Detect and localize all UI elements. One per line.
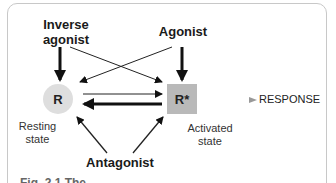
activated-line1: Activated bbox=[180, 122, 240, 135]
resting-state-node: R bbox=[43, 84, 73, 114]
response-label: RESPONSE bbox=[259, 93, 320, 105]
resting-line1: Resting bbox=[15, 120, 60, 133]
activated-symbol: R* bbox=[175, 92, 189, 107]
inverse-agonist-line1: Inverse bbox=[35, 17, 97, 32]
figure-caption-fragment: Fig. 2.1 The bbox=[20, 176, 86, 183]
inverse-to-ractive-thin-arrow bbox=[70, 47, 162, 82]
activated-state-node: R* bbox=[167, 84, 197, 114]
activated-line2: state bbox=[180, 135, 240, 148]
resting-line2: state bbox=[15, 133, 60, 146]
activated-state-label: Activated state bbox=[180, 122, 240, 148]
antagonist-to-ractive-arrow bbox=[133, 117, 163, 153]
inverse-agonist-line2: agonist bbox=[35, 32, 97, 47]
resting-state-label: Resting state bbox=[15, 120, 60, 146]
agonist-label: Agonist bbox=[150, 24, 216, 39]
antagonist-label: Antagonist bbox=[80, 155, 160, 170]
resting-symbol: R bbox=[53, 92, 62, 107]
inverse-agonist-label: Inverse agonist bbox=[35, 17, 97, 47]
agonist-to-r-thin-arrow bbox=[80, 47, 172, 82]
antagonist-to-r-arrow bbox=[77, 117, 107, 153]
